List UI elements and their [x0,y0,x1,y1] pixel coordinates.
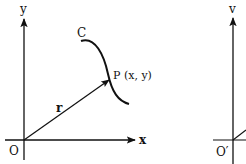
right-origin-label: O′ [216,145,229,159]
y-axis-label: y [19,2,27,16]
vector-label: r [56,101,63,115]
curve-label: C [77,26,86,40]
position-vector-r [24,80,109,140]
origin-label: O [9,144,19,158]
v-axis-label: v [228,2,236,16]
left-panel: y x O C P (x, y) r [5,2,152,160]
x-axis-label: x [139,133,147,147]
point-label: P (x, y) [113,69,152,82]
right-panel: v O′ [213,2,246,164]
position-vector-diagram: y x O C P (x, y) r v O′ [0,0,246,164]
right-vector [233,130,246,140]
